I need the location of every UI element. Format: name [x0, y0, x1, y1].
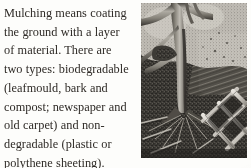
text-line: (leafmould, bark and	[4, 79, 136, 98]
body-text-column: Mulching means coating the ground with a…	[4, 4, 136, 168]
text-line: two types: biodegradable	[4, 60, 136, 79]
text-line: Mulching means coating	[4, 4, 136, 23]
scanned-page: Mulching means coating the ground with a…	[0, 0, 251, 168]
text-line: compost; newspaper and	[4, 98, 136, 117]
text-line: old carpet) and non-	[4, 116, 136, 135]
text-line: the ground with a layer	[4, 23, 136, 42]
text-line: degradable (plastic or	[4, 135, 136, 154]
mulching-illustration	[141, 3, 247, 158]
text-line: polythene sheeting).	[4, 154, 136, 168]
text-line: of material. There are	[4, 41, 136, 60]
body-paragraph: Mulching means coating the ground with a…	[4, 4, 136, 168]
illustration-artwork	[141, 3, 247, 158]
